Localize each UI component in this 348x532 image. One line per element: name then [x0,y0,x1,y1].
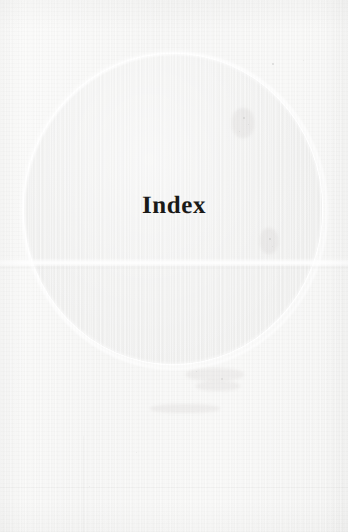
title-layer: Index [0,0,348,532]
scanned-page: Index [0,0,348,532]
page-title: Index [142,193,206,218]
